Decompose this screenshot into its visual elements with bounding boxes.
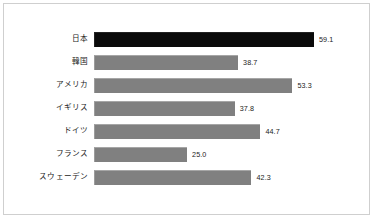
bar-row: アメリカ53.3 [4, 77, 369, 93]
bar-value-label: 53.3 [297, 78, 311, 93]
bar-category-label: 韓国 [4, 54, 88, 70]
bar [94, 101, 235, 116]
bar [94, 124, 260, 139]
bar-value-label: 44.7 [265, 124, 279, 139]
bar-value-label: 38.7 [243, 55, 257, 70]
bar-value-label: 37.8 [240, 101, 254, 116]
bar [94, 147, 187, 162]
bar-category-label: アメリカ [4, 77, 88, 93]
bar-row: 日本59.1 [4, 31, 369, 47]
chart-frame: 日本59.1韓国38.7アメリカ53.3イギリス37.8ドイツ44.7フランス2… [3, 3, 370, 215]
bar-row: スウェーデン42.3 [4, 169, 369, 185]
bar [94, 55, 238, 70]
bar [94, 32, 314, 47]
bar-value-label: 59.1 [319, 32, 333, 47]
bar [94, 78, 292, 93]
bar-value-label: 42.3 [256, 170, 270, 185]
bar-chart-plot-area: 日本59.1韓国38.7アメリカ53.3イギリス37.8ドイツ44.7フランス2… [4, 4, 369, 214]
bar-row: ドイツ44.7 [4, 123, 369, 139]
bar-category-label: 日本 [4, 31, 88, 47]
bar-category-label: スウェーデン [4, 169, 88, 185]
bar-category-label: ドイツ [4, 123, 88, 139]
bar [94, 170, 251, 185]
bar-category-label: フランス [4, 146, 88, 162]
bar-value-label: 25.0 [192, 147, 206, 162]
bar-row: フランス25.0 [4, 146, 369, 162]
bar-category-label: イギリス [4, 100, 88, 116]
bar-row: イギリス37.8 [4, 100, 369, 116]
bar-row: 韓国38.7 [4, 54, 369, 70]
